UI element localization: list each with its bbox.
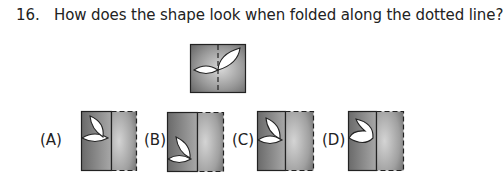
question-text: How does the shape look when folded alon… (54, 6, 503, 24)
option-c-figure[interactable] (257, 111, 314, 171)
option-b-label[interactable]: (B) (144, 131, 166, 149)
option-a-figure[interactable] (81, 111, 137, 171)
option-d-figure[interactable] (348, 111, 404, 171)
question-number: 16. (16, 6, 40, 24)
option-d-label[interactable]: (D) (322, 131, 345, 149)
option-a-label[interactable]: (A) (40, 131, 62, 149)
option-c-label[interactable]: (C) (232, 131, 254, 149)
question-figure (190, 44, 246, 93)
option-b-figure[interactable] (167, 112, 224, 172)
